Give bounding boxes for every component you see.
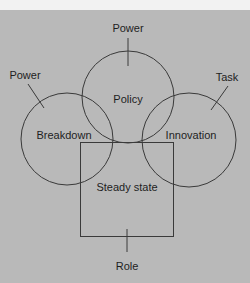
task-connector	[211, 86, 228, 110]
innovation-label: Innovation	[166, 130, 217, 141]
breakdown-label: Breakdown	[36, 130, 91, 141]
diagram-shapes	[0, 0, 250, 283]
steady-state-label: Steady state	[96, 182, 157, 193]
power-left-label: Power	[9, 70, 40, 81]
role-label: Role	[116, 261, 139, 272]
diagram-canvas: Power Power Task Role Policy Breakdown I…	[0, 0, 250, 283]
policy-label: Policy	[113, 94, 142, 105]
power-top-label: Power	[112, 23, 143, 34]
task-label: Task	[216, 72, 239, 83]
